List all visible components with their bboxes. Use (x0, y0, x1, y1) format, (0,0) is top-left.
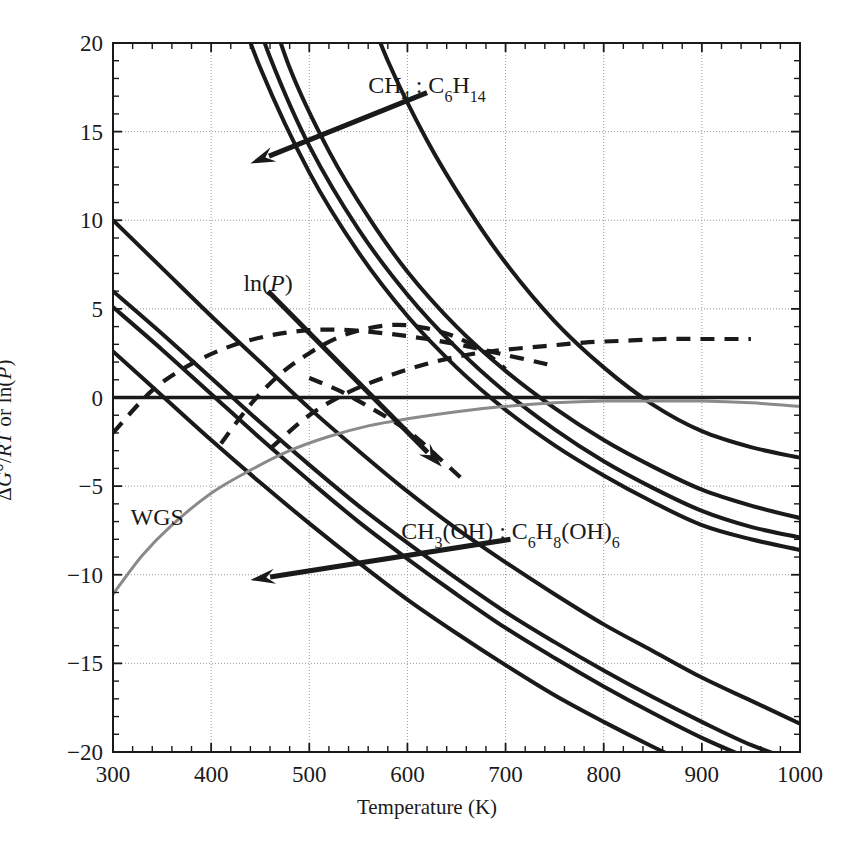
x-tick-label: 900 (685, 762, 720, 787)
annotation-label: CH4 : C6H14 (368, 72, 485, 105)
annotation-label: WGS (130, 504, 183, 530)
chart-figure: ΔG°/RT or ln(P) Temperature (K) 30040050… (0, 0, 854, 848)
y-tick-label: 20 (80, 31, 103, 56)
annotation-label: ln(P) (243, 270, 292, 296)
y-axis-label: ΔG°/RT or ln(P) (0, 300, 17, 560)
series-lnP-dashed-2 (113, 330, 553, 433)
x-tick-label: 300 (96, 762, 131, 787)
y-tick-label: 5 (92, 297, 104, 322)
x-tick-label: 800 (586, 762, 621, 787)
y-tick-label: −15 (67, 651, 103, 676)
data-curves (113, 0, 800, 809)
y-tick-label: −10 (67, 563, 103, 588)
y-tick-label: 0 (92, 386, 104, 411)
x-tick-label: 500 (292, 762, 327, 787)
x-tick-label: 400 (194, 762, 229, 787)
x-axis-label: Temperature (K) (0, 795, 854, 820)
x-tick-label: 700 (488, 762, 523, 787)
x-tick-label: 1000 (777, 762, 823, 787)
tick-labels: 3004005006007008009001000−20−15−10−50510… (67, 31, 823, 787)
y-tick-label: −5 (79, 474, 103, 499)
plot-canvas: 3004005006007008009001000−20−15−10−50510… (0, 0, 854, 848)
annotation-label: CH3(OH) : C6H8(OH)6 (401, 518, 620, 551)
y-tick-label: 10 (80, 208, 103, 233)
x-tick-label: 600 (390, 762, 425, 787)
series-lnP-solid-c (258, 0, 800, 518)
y-tick-label: −20 (67, 740, 103, 765)
series-lnP-solid-b (241, 0, 800, 538)
y-tick-label: 15 (80, 120, 103, 145)
series-lnP-solid-d (353, 0, 800, 458)
